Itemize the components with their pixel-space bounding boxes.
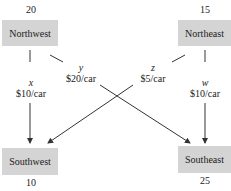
southeast-demand: 25 (190, 175, 220, 186)
edge-y-line-top (50, 55, 63, 62)
node-northwest: Northwest (2, 20, 58, 46)
node-southeast: Southeast (178, 146, 231, 173)
node-southwest: Southwest (2, 148, 58, 175)
edge-y-label: y $20/car (56, 62, 106, 84)
edge-z-label: z $5/car (128, 62, 178, 84)
edge-y-arrow (100, 85, 190, 143)
edge-w-var: w (202, 77, 209, 88)
edge-x-var: x (29, 77, 33, 88)
edge-y-cost: $20/car (66, 73, 96, 84)
edge-z-arrow (48, 85, 133, 143)
northeast-supply: 15 (190, 4, 220, 15)
edge-w-cost: $10/car (190, 88, 220, 99)
edge-w-label: w $10/car (180, 77, 230, 99)
node-northeast: Northeast (178, 20, 231, 46)
edge-z-cost: $5/car (141, 73, 166, 84)
southwest-demand: 10 (16, 177, 46, 188)
northwest-supply: 20 (16, 4, 46, 15)
edge-x-cost: $10/car (16, 88, 46, 99)
edge-x-label: x $10/car (6, 77, 56, 99)
edge-z-var: z (151, 62, 155, 73)
edge-z-line-top (172, 55, 185, 62)
edge-y-var: y (79, 62, 83, 73)
